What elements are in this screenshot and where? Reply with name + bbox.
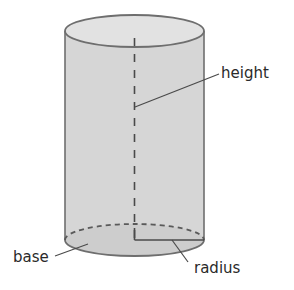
cylinder-diagram: height base radius	[0, 0, 294, 290]
cylinder-body	[65, 31, 204, 256]
radius-label: radius	[194, 259, 241, 277]
base-label: base	[13, 248, 49, 266]
height-label: height	[221, 64, 269, 82]
